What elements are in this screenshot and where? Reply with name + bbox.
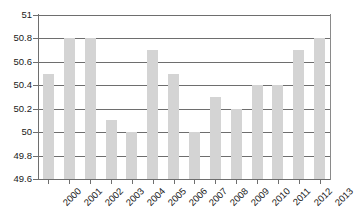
- y-axis-tick-label: 49.8: [1, 151, 32, 161]
- bar-series: [38, 15, 330, 179]
- bar: [106, 120, 117, 179]
- x-axis-tick-mark: [215, 180, 216, 184]
- bar: [147, 50, 158, 179]
- x-axis-tick-label: 2001: [82, 186, 104, 208]
- y-axis-tick-label: 50.2: [1, 104, 32, 114]
- y-axis-line: [38, 14, 39, 180]
- x-axis-tick-label: 2002: [103, 186, 125, 208]
- y-axis-tick-label: 50.6: [1, 57, 32, 67]
- y-axis-tick-label: 49.6: [1, 174, 32, 184]
- x-axis-tick-label: 2012: [312, 186, 334, 208]
- x-axis-tick-mark: [48, 180, 49, 184]
- bar: [231, 109, 242, 179]
- x-axis-tick-mark: [257, 180, 258, 184]
- bar: [126, 132, 137, 179]
- x-axis-tick-mark: [132, 180, 133, 184]
- bar: [64, 38, 75, 179]
- x-axis-tick-label: 2007: [208, 186, 230, 208]
- x-axis-tick-mark: [69, 180, 70, 184]
- y-axis-tick-label: 51: [1, 10, 32, 20]
- bar: [168, 74, 179, 179]
- bar: [252, 85, 263, 179]
- bar: [85, 38, 96, 179]
- x-axis-tick-mark: [90, 180, 91, 184]
- y-axis-tick-label: 50: [1, 127, 32, 137]
- x-axis-tick-label: 2004: [145, 186, 167, 208]
- x-axis-tick-label: 2003: [124, 186, 146, 208]
- x-axis-tick-label: 2011: [291, 186, 312, 207]
- x-axis-tick-mark: [111, 180, 112, 184]
- bar: [210, 97, 221, 179]
- bar: [43, 74, 54, 179]
- x-axis-tick-mark: [194, 180, 195, 184]
- x-axis-tick-mark: [174, 180, 175, 184]
- y-axis-tick-label: 50.8: [1, 33, 32, 43]
- bar: [272, 85, 283, 179]
- plot-right-border: [330, 14, 331, 180]
- x-axis-tick-label: 2000: [62, 186, 84, 208]
- x-axis-tick-mark: [320, 180, 321, 184]
- bar: [189, 132, 200, 179]
- x-axis-tick-mark: [153, 180, 154, 184]
- x-axis-tick-label: 2010: [270, 186, 292, 208]
- bar: [293, 50, 304, 179]
- x-axis-tick-mark: [278, 180, 279, 184]
- x-axis-tick-label: 2005: [166, 186, 188, 208]
- bar: [314, 38, 325, 179]
- x-axis-tick-label: 2006: [187, 186, 209, 208]
- x-axis-tick-label: 2009: [249, 186, 271, 208]
- x-axis-line: [38, 179, 331, 180]
- y-axis-tick-label: 50.4: [1, 80, 32, 90]
- x-axis-tick-mark: [299, 180, 300, 184]
- x-axis-tick-mark: [236, 180, 237, 184]
- x-axis-tick-label: 2008: [228, 186, 250, 208]
- x-axis-tick-label: 2013: [333, 186, 355, 208]
